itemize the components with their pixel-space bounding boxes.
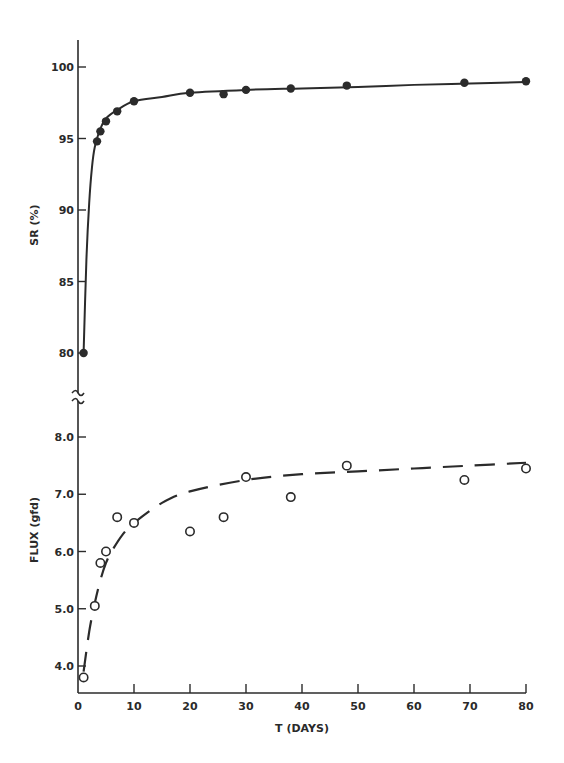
sr-data-point bbox=[130, 97, 138, 105]
y-tick-label: 5.0 bbox=[55, 603, 75, 616]
x-tick-label: 0 bbox=[74, 700, 82, 713]
plot-area bbox=[79, 77, 530, 682]
chart-canvas: 808590951004.05.06.07.08.001020304050607… bbox=[0, 0, 564, 763]
flux-data-point bbox=[102, 547, 110, 555]
y-tick-label: 80 bbox=[59, 347, 75, 360]
flux-data-point bbox=[460, 476, 468, 484]
flux-data-point bbox=[96, 559, 104, 567]
sr-data-point bbox=[93, 137, 101, 145]
sr-data-point bbox=[522, 77, 530, 85]
sr-fit-curve bbox=[84, 82, 526, 353]
sr-data-point bbox=[242, 86, 250, 94]
x-tick-label: 80 bbox=[518, 700, 534, 713]
y-tick-label: 100 bbox=[51, 61, 74, 74]
flux-data-point bbox=[219, 513, 227, 521]
bottom-y-axis-label: FLUX (gfd) bbox=[28, 497, 41, 563]
flux-data-point bbox=[79, 673, 87, 681]
flux-data-point bbox=[91, 602, 99, 610]
flux-fit-curve bbox=[84, 463, 526, 672]
flux-data-point bbox=[522, 464, 530, 472]
x-tick-label: 30 bbox=[238, 700, 254, 713]
x-tick-label: 40 bbox=[294, 700, 310, 713]
y-tick-label: 90 bbox=[59, 204, 75, 217]
chart-figure: 808590951004.05.06.07.08.001020304050607… bbox=[0, 0, 564, 763]
y-tick-label: 7.0 bbox=[55, 488, 75, 501]
sr-data-point bbox=[460, 79, 468, 87]
y-tick-label: 8.0 bbox=[55, 431, 75, 444]
sr-data-point bbox=[186, 89, 194, 97]
y-tick-label: 95 bbox=[59, 133, 74, 146]
top-y-axis-label: SR (%) bbox=[28, 204, 41, 245]
sr-data-point bbox=[102, 117, 110, 125]
x-tick-label: 60 bbox=[406, 700, 422, 713]
sr-data-point bbox=[79, 349, 87, 357]
flux-data-point bbox=[343, 461, 351, 469]
flux-data-point bbox=[186, 527, 194, 535]
flux-data-point bbox=[130, 519, 138, 527]
sr-data-point bbox=[287, 84, 295, 92]
flux-data-point bbox=[113, 513, 121, 521]
x-tick-label: 70 bbox=[462, 700, 478, 713]
flux-data-point bbox=[287, 493, 295, 501]
sr-data-point bbox=[343, 81, 351, 89]
x-tick-label: 50 bbox=[350, 700, 366, 713]
x-axis-label: T (DAYS) bbox=[275, 722, 329, 735]
x-tick-label: 10 bbox=[126, 700, 142, 713]
y-tick-label: 4.0 bbox=[55, 660, 75, 673]
y-tick-label: 6.0 bbox=[55, 546, 75, 559]
axes: 808590951004.05.06.07.08.001020304050607… bbox=[51, 40, 534, 713]
sr-data-point bbox=[219, 90, 227, 98]
y-tick-label: 85 bbox=[59, 276, 74, 289]
x-tick-label: 20 bbox=[182, 700, 198, 713]
flux-data-point bbox=[242, 473, 250, 481]
sr-data-point bbox=[96, 127, 104, 135]
sr-data-point bbox=[113, 107, 121, 115]
